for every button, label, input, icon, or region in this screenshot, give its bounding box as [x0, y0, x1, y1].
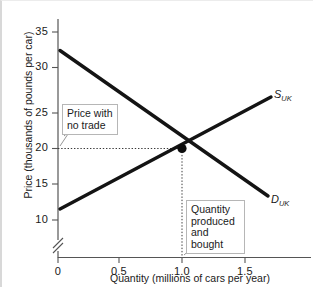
demand-curve-label-sub: UK: [279, 199, 289, 208]
demand-curve-label-main: D: [271, 193, 279, 205]
annotation-quantity-produced-and-bought: Quantity produced and bought: [186, 200, 245, 254]
equilibrium-point-marker: [177, 144, 186, 153]
supply-curve-label-sub: UK: [281, 94, 291, 103]
chart-plot-area: [2, 1, 313, 287]
x-tick-label-0: 0: [41, 265, 75, 277]
y-axis-title: Price (thousands of pounds per car): [22, 30, 34, 200]
supply-curve-label: SUK: [274, 88, 292, 103]
x-axis-title: Quantity (millions of cars per year): [110, 272, 270, 284]
chart-figure: 35 30 25 20 15 10 0 0.5 1.0 1.5 Price (t…: [0, 0, 313, 287]
y-tick-label-10: 10: [22, 213, 48, 225]
annotation-price-with-no-trade: Price with no trade: [62, 104, 118, 135]
demand-curve-label: DUK: [271, 193, 289, 208]
